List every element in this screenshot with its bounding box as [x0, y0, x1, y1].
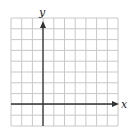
grid-lines: [11, 18, 118, 126]
y-axis-label: y: [38, 6, 46, 19]
coordinate-plane: x y: [0, 0, 133, 133]
y-axis-arrow-icon: [40, 21, 46, 28]
x-axis-label: x: [121, 98, 128, 111]
